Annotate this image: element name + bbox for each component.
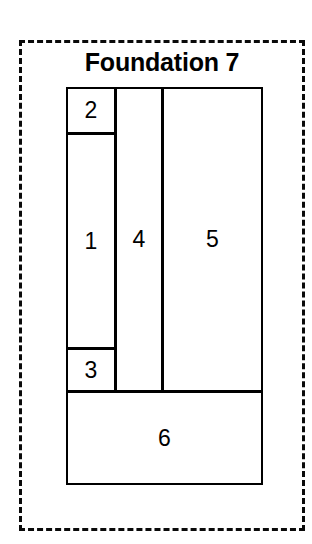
foundation-cell-3[interactable]: 3: [66, 348, 116, 392]
cell-label-3: 3: [85, 359, 98, 382]
foundation-cell-1[interactable]: 1: [66, 133, 116, 349]
foundation-plan: 2 1 3 4 5 6: [0, 0, 312, 544]
cell-label-2: 2: [85, 99, 98, 122]
foundation-cell-6[interactable]: 6: [66, 391, 263, 485]
foundation-cell-4[interactable]: 4: [115, 87, 163, 392]
cell-label-4: 4: [133, 228, 146, 251]
foundation-cell-2[interactable]: 2: [66, 87, 116, 134]
foundation-cell-5[interactable]: 5: [162, 87, 263, 392]
cell-label-6: 6: [158, 427, 171, 450]
cell-label-1: 1: [85, 230, 98, 253]
cell-label-5: 5: [206, 228, 219, 251]
